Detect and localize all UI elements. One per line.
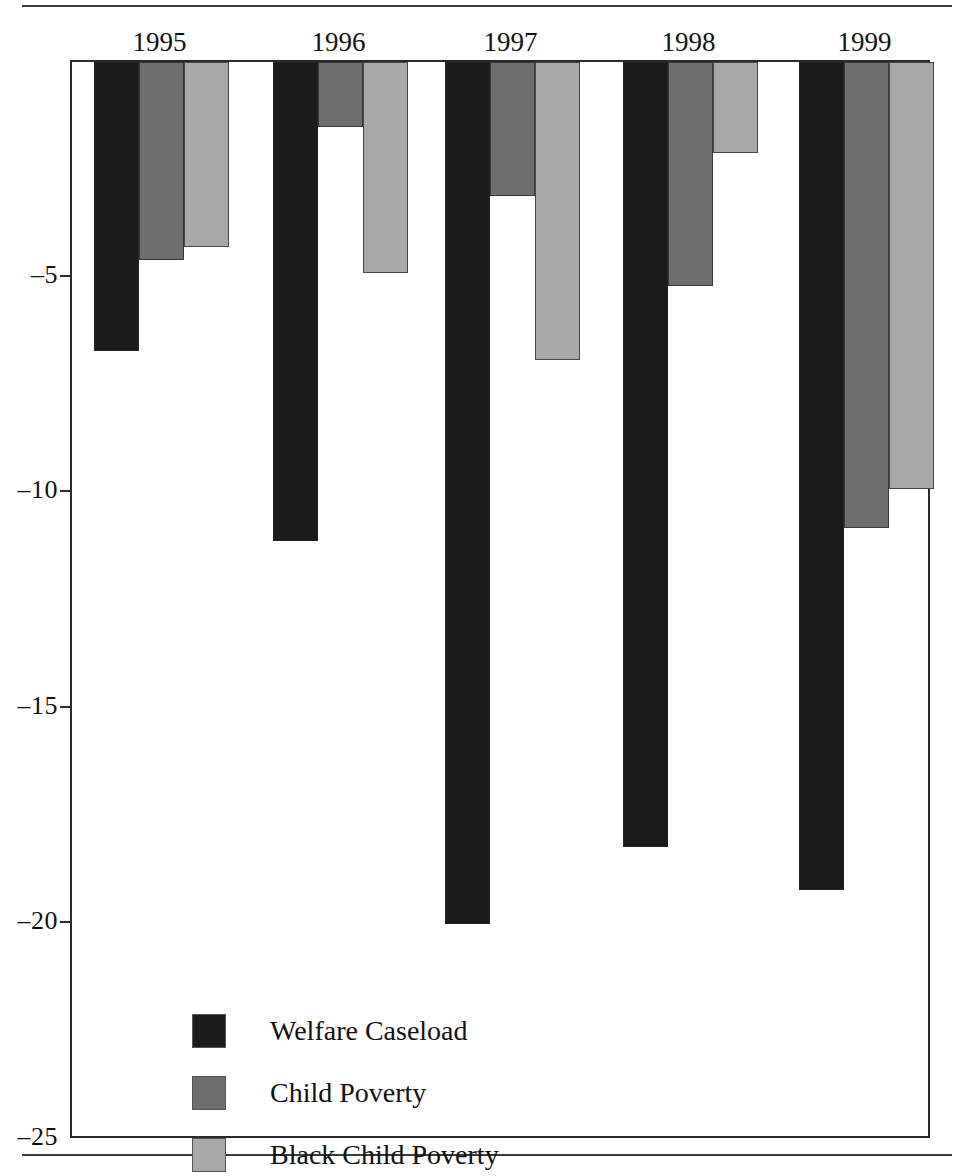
y-axis-tick-label: –15	[2, 693, 58, 719]
chart-legend: Welfare CaseloadChild PovertyBlack Child…	[192, 1000, 612, 1176]
legend-label: Welfare Caseload	[270, 1016, 468, 1046]
legend-item: Welfare Caseload	[192, 1000, 612, 1062]
bar	[490, 62, 535, 196]
x-axis-tick-label: 1995	[100, 26, 220, 58]
bar	[623, 62, 668, 847]
legend-swatch	[192, 1014, 226, 1048]
y-axis-tick-label: –5	[2, 262, 58, 288]
legend-label: Child Poverty	[270, 1078, 426, 1108]
bar	[184, 62, 229, 247]
legend-swatch	[192, 1076, 226, 1110]
bar	[318, 62, 363, 127]
bar	[139, 62, 184, 260]
bar	[668, 62, 713, 286]
y-axis-tick-label: –25	[2, 1124, 58, 1150]
legend-swatch	[192, 1138, 226, 1172]
bars-layer	[72, 62, 928, 1136]
x-axis-tick-label: 1998	[629, 26, 749, 58]
y-axis-labels: –5–10–15–20–25	[0, 0, 58, 1160]
x-axis-tick-label: 1996	[279, 26, 399, 58]
bar	[799, 62, 844, 890]
y-axis-tick-label: –10	[2, 477, 58, 503]
legend-item: Child Poverty	[192, 1062, 612, 1124]
x-axis-tick-label: 1997	[451, 26, 571, 58]
legend-label: Black Child Poverty	[270, 1140, 499, 1170]
bar	[844, 62, 889, 528]
legend-item: Black Child Poverty	[192, 1124, 612, 1176]
bar	[94, 62, 139, 351]
bar	[535, 62, 580, 360]
bar	[445, 62, 490, 924]
bar	[363, 62, 408, 273]
plot-area: Welfare CaseloadChild PovertyBlack Child…	[70, 60, 930, 1138]
bar	[273, 62, 318, 541]
x-axis-labels: 19951996199719981999	[0, 26, 968, 60]
bar	[713, 62, 758, 153]
x-axis-tick-label: 1999	[805, 26, 925, 58]
bar	[889, 62, 934, 489]
top-rule	[22, 5, 952, 7]
y-axis-tick-label: –20	[2, 908, 58, 934]
